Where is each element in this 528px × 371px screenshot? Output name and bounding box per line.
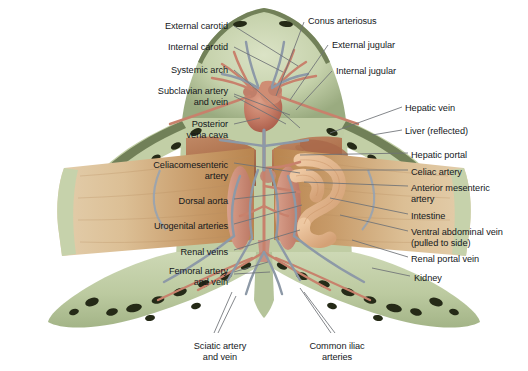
label-renal-veins: Renal veins xyxy=(0,247,228,258)
label-celiacomesenteric: Celiacomesenteric artery xyxy=(0,160,228,181)
label-hepatic-portal: Hepatic portal xyxy=(411,150,467,161)
label-sciatic: Sciatic artery and vein xyxy=(160,341,280,362)
label-dorsal-aorta: Dorsal aorta xyxy=(0,196,228,207)
label-anterior-mesenteric: Anterior mesenteric artery xyxy=(411,183,490,204)
label-intestine: Intestine xyxy=(411,211,445,222)
label-urogenital-arteries: Urogenital arteries xyxy=(0,221,228,232)
label-kidney: Kidney xyxy=(414,273,442,284)
label-liver-reflected: Liver (reflected) xyxy=(405,126,468,137)
label-systemic-arch: Systemic arch xyxy=(0,65,228,76)
label-ventral-abdominal: Ventral abdominal vein (pulled to side) xyxy=(411,227,503,248)
label-external-jugular: External jugular xyxy=(332,40,395,51)
figure-canvas: External carotidInternal carotidSystemic… xyxy=(0,0,528,371)
label-common-iliac: Common iliac arteries xyxy=(277,341,397,362)
label-internal-jugular: Internal jugular xyxy=(336,66,396,77)
label-internal-carotid: Internal carotid xyxy=(0,42,228,53)
label-external-carotid: External carotid xyxy=(0,21,228,32)
label-conus-arteriosus: Conus arteriosus xyxy=(308,16,377,27)
label-subclavian: Subclavian artery and vein xyxy=(0,86,228,107)
label-femoral: Femoral artery and vein xyxy=(0,266,228,287)
label-hepatic-vein: Hepatic vein xyxy=(405,103,455,114)
label-posterior-vena-cava: Posterior vena cava xyxy=(0,119,228,140)
label-celiac-artery: Celiac artery xyxy=(411,167,462,178)
label-renal-portal-vein: Renal portal vein xyxy=(411,254,479,265)
